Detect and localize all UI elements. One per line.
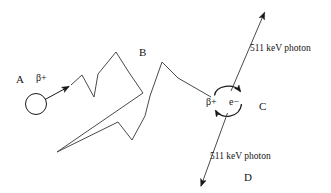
label-photon-down: 511 keV photon xyxy=(210,152,271,162)
positron-emission-arrow xyxy=(45,87,69,100)
label-photon-up: 511 keV photon xyxy=(250,44,311,54)
label-electron: e− xyxy=(229,97,239,107)
annihilation-arc-top xyxy=(215,86,241,95)
figure-canvas: A B C D β+ β+ e− 511 keV photon 511 keV … xyxy=(0,0,331,193)
label-point-c: C xyxy=(259,101,266,112)
label-point-a: A xyxy=(16,74,24,85)
positron-scatter-track xyxy=(57,52,211,152)
label-positron-annihilation: β+ xyxy=(206,97,217,107)
photon-arrow-down xyxy=(201,113,228,186)
positron-annihilation-diagram xyxy=(0,0,331,193)
label-point-b: B xyxy=(139,47,146,58)
label-positron-emitted: β+ xyxy=(36,73,47,83)
label-point-d: D xyxy=(244,172,252,183)
nucleus-circle xyxy=(26,94,47,115)
